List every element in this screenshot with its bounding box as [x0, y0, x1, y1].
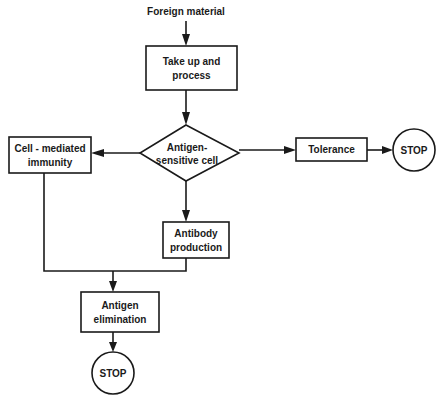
take-up-line2: process	[172, 70, 211, 81]
decision-line2: sensitive cell	[156, 155, 218, 166]
edge-decision-to-tolerance	[239, 146, 296, 154]
antibody-production-box: Antibody production	[163, 222, 229, 258]
stop-right-label: STOP	[400, 145, 427, 156]
edge-decision-to-cell-mediated	[91, 149, 140, 157]
antibody-line2: production	[170, 242, 222, 253]
antigen-sensitive-cell-diamond: Antigen- sensitive cell	[140, 125, 239, 181]
take-up-process-box: Take up and process	[146, 46, 237, 90]
elimination-line1: Antigen	[101, 300, 138, 311]
tolerance-label: Tolerance	[308, 144, 355, 155]
edge-elimination-to-stop	[109, 332, 117, 352]
stop-right-terminal: STOP	[393, 129, 435, 171]
decision-line1: Antigen-	[167, 142, 208, 153]
elimination-line2: elimination	[94, 314, 147, 325]
edge-tolerance-to-stop	[367, 146, 393, 154]
stop-bottom-label: STOP	[99, 368, 126, 379]
cell-mediated-immunity-box: Cell - mediated immunity	[9, 137, 91, 173]
cell-mediated-line1: Cell - mediated	[14, 143, 85, 154]
edge-takeup-to-decision	[182, 90, 190, 125]
foreign-material-label: Foreign material	[147, 6, 225, 17]
edge-input-to-takeup	[182, 21, 190, 46]
tolerance-box: Tolerance	[296, 138, 367, 161]
antibody-line1: Antibody	[174, 228, 218, 239]
flowchart: Foreign material Take up and process Ant…	[0, 0, 448, 406]
cell-mediated-line2: immunity	[28, 157, 73, 168]
take-up-line1: Take up and	[163, 56, 221, 67]
stop-bottom-terminal: STOP	[92, 352, 134, 394]
antigen-elimination-box: Antigen elimination	[81, 292, 159, 332]
edge-decision-to-antibody	[182, 181, 190, 222]
